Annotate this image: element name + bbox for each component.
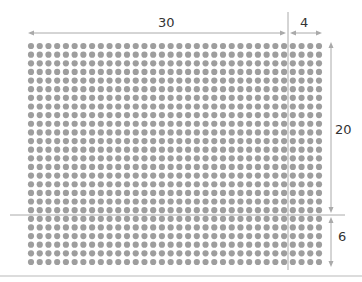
dot-grid [28, 43, 322, 265]
dimension-label-6: 6 [338, 229, 346, 244]
dimension-label-4: 4 [300, 15, 308, 30]
dimension-label-30: 30 [158, 15, 175, 30]
dimension-arrow-30 [28, 31, 286, 36]
dimension-arrow-20 [329, 42, 334, 213]
dot-grid-diagram [0, 0, 362, 282]
dimension-arrow-4 [290, 31, 322, 36]
dimension-arrow-6 [329, 217, 334, 267]
dimension-label-20: 20 [335, 122, 352, 137]
